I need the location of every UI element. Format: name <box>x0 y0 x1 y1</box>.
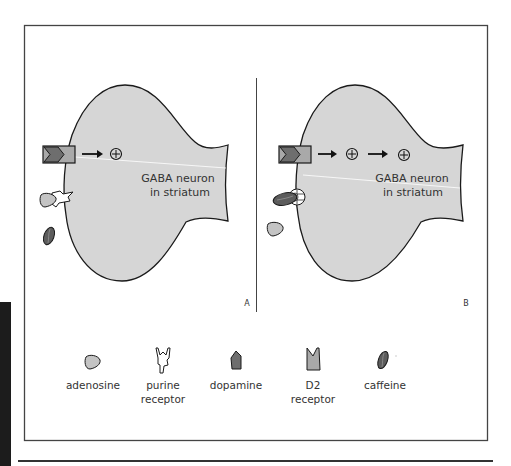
speck <box>395 355 396 356</box>
figure: GABA neuron in striatum A <box>0 0 511 466</box>
neuron-label-line1: GABA neuron <box>375 172 448 185</box>
legend-label: adenosine <box>66 379 120 391</box>
left-dark-bar <box>0 302 11 466</box>
panel-letter-a: A <box>244 299 250 308</box>
neuron-label-line2: in striatum <box>150 186 210 199</box>
plus-icon <box>399 150 410 161</box>
d2-receptor-bound-dopamine <box>279 146 311 163</box>
neuron-label-line1: GABA neuron <box>141 172 214 185</box>
neuron-label-line2: in striatum <box>383 186 443 199</box>
panel-letter-b: B <box>463 299 469 308</box>
plus-icon <box>347 149 358 160</box>
plus-icon <box>111 149 122 160</box>
legend-label: receptor <box>141 393 186 405</box>
legend-label: receptor <box>291 393 336 405</box>
d2-receptor-bound-dopamine <box>43 146 75 163</box>
legend-label: purine <box>146 379 180 391</box>
legend-label: caffeine <box>364 379 406 391</box>
legend-label: dopamine <box>210 379 262 391</box>
legend-label: D2 <box>306 379 321 391</box>
